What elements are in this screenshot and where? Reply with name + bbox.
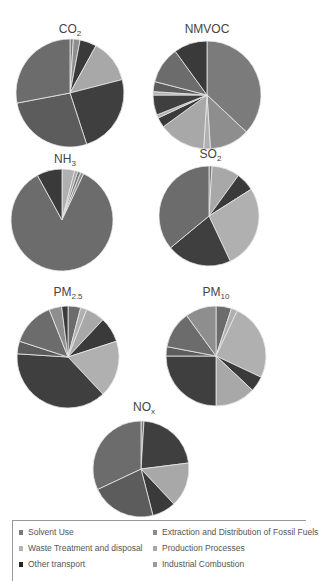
pie-nh3: NH3 — [10, 150, 120, 280]
pie-slice — [16, 39, 70, 103]
pie-pm10: PM10 — [165, 285, 267, 410]
pie-chart — [158, 165, 260, 267]
legend-swatch-icon — [19, 562, 23, 567]
pie-slice — [141, 421, 189, 469]
pie-title: PM2.5 — [16, 285, 120, 301]
pie-title: NH3 — [10, 152, 120, 168]
legend: Solvent Use Extraction and Distribution … — [12, 520, 306, 581]
legend-item: Solvent Use — [19, 527, 74, 537]
legend-swatch-icon — [19, 530, 23, 535]
legend-swatch-icon — [153, 546, 157, 551]
pie-chart — [15, 38, 125, 148]
pie-chart — [16, 305, 120, 409]
pie-nmvoc: NMVOC — [152, 20, 262, 145]
pie-chart — [152, 40, 262, 150]
pie-co2: CO2 — [15, 20, 125, 145]
pie-nox: NOx — [92, 400, 196, 520]
legend-item: Extraction and Distribution of Fossil Fu… — [153, 527, 318, 537]
legend-item: Other transport — [19, 559, 85, 569]
pie-title: NMVOC — [152, 22, 262, 38]
pie-chart — [10, 168, 114, 272]
pie-so2: SO2 — [158, 145, 263, 275]
legend-item: Production Processes — [153, 543, 245, 553]
legend-item: Industrial Combustion — [153, 559, 244, 569]
pie-title: SO2 — [158, 147, 263, 163]
legend-swatch-icon — [19, 546, 23, 551]
legend-swatch-icon — [153, 562, 157, 567]
pie-chart — [165, 305, 267, 407]
legend-item: Waste Treatment and disposal — [19, 543, 143, 553]
pie-title: NOx — [92, 400, 196, 416]
pie-title: PM10 — [165, 285, 267, 301]
pie-title: CO2 — [15, 22, 125, 38]
legend-swatch-icon — [153, 530, 157, 535]
pie-chart — [92, 420, 190, 518]
pie-slice — [166, 356, 216, 406]
pie-pm25: PM2.5 — [16, 285, 120, 410]
